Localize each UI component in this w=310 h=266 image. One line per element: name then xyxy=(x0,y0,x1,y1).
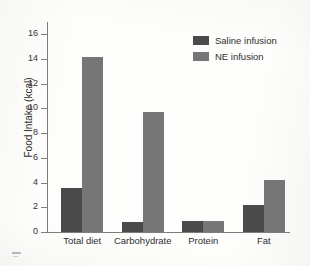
y-axis-tick-mark xyxy=(41,158,47,159)
bar xyxy=(122,222,143,232)
bar xyxy=(143,112,164,232)
y-axis-tick-mark xyxy=(41,232,47,233)
y-axis-tick-label: 12 xyxy=(18,79,38,88)
y-axis-tick: 4 xyxy=(0,183,47,184)
y-axis-tick-label: 10 xyxy=(18,103,38,112)
legend-entry: NE infusion xyxy=(193,50,277,63)
legend-swatch-ne xyxy=(193,52,209,61)
y-axis-tick-mark xyxy=(41,207,47,208)
y-axis-tick-label: 0 xyxy=(18,227,38,236)
y-axis-tick-mark xyxy=(41,133,47,134)
y-axis-tick: 0 xyxy=(0,232,47,233)
x-axis-line xyxy=(47,232,290,233)
chart-legend: Saline infusionNE infusion xyxy=(193,34,277,66)
legend-entry-label: NE infusion xyxy=(215,52,264,62)
y-axis-tick-label: 8 xyxy=(18,128,38,137)
legend-entry-label: Saline infusion xyxy=(215,36,277,46)
bar xyxy=(264,180,285,232)
bar xyxy=(82,57,103,232)
y-axis-tick: 6 xyxy=(0,158,47,159)
y-axis-tick-label: 6 xyxy=(18,153,38,162)
bar-group xyxy=(122,22,164,232)
legend-entry: Saline infusion xyxy=(193,34,277,47)
y-axis-tick: 16 xyxy=(0,34,47,35)
scan-artifact-mark xyxy=(12,252,21,254)
y-axis-tick: 14 xyxy=(0,59,47,60)
bar xyxy=(243,205,264,232)
y-axis-tick-label: 16 xyxy=(18,29,38,38)
y-axis-tick: 10 xyxy=(0,108,47,109)
y-axis-tick: 12 xyxy=(0,84,47,85)
bar-group xyxy=(61,22,103,232)
y-axis-tick-mark xyxy=(41,59,47,60)
legend-swatch-saline xyxy=(193,36,209,45)
bar-chart-figure: Food Intake (kcal) 0246810121416 Total d… xyxy=(0,0,310,266)
bar xyxy=(203,221,224,232)
y-axis-tick: 8 xyxy=(0,133,47,134)
y-axis-tick-mark xyxy=(41,108,47,109)
y-axis-tick-mark xyxy=(41,84,47,85)
y-axis-tick-label: 4 xyxy=(18,178,38,187)
scan-artifact-mark-secondary xyxy=(13,256,18,257)
y-axis-tick: 2 xyxy=(0,207,47,208)
y-axis-tick-mark xyxy=(41,183,47,184)
y-axis-tick-mark xyxy=(41,34,47,35)
bar xyxy=(182,221,203,232)
y-axis-tick-label: 2 xyxy=(18,202,38,211)
bar xyxy=(61,188,82,232)
x-axis-category-label: Fat xyxy=(224,236,304,246)
y-axis-tick-label: 14 xyxy=(18,54,38,63)
